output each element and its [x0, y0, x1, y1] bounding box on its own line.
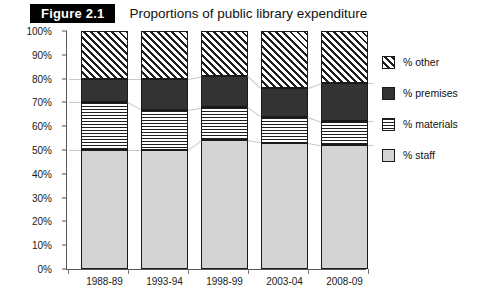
segment-connector-line	[308, 83, 321, 89]
y-axis-tick-label: 20%	[32, 216, 52, 227]
bar-segment-staff[interactable]	[321, 145, 368, 269]
legend-label: % premises	[403, 87, 458, 99]
x-axis-tick-mark	[188, 269, 189, 274]
legend-label: % materials	[403, 118, 458, 130]
y-axis-line	[66, 31, 67, 270]
bar-segment-premises[interactable]	[141, 79, 188, 110]
segment-connector-line	[247, 76, 261, 89]
segment-connector-line	[128, 102, 141, 110]
segment-connector-line	[308, 143, 321, 146]
segment-connector-line	[368, 145, 374, 146]
segment-connector-line	[188, 140, 202, 150]
segment-connector-line	[368, 121, 374, 122]
y-axis-tick-label: 60%	[32, 121, 52, 132]
x-axis-label-2008-09: 2008-09	[308, 276, 382, 287]
segment-connector-line	[188, 76, 201, 79]
legend-label: % staff	[403, 149, 435, 161]
y-axis-tick-label: 50%	[32, 145, 52, 156]
bar-segment-other[interactable]	[141, 31, 188, 79]
segment-connector-line	[247, 107, 261, 117]
segment-connector-line	[308, 117, 321, 123]
y-axis-tick-label: 100%	[26, 26, 52, 37]
bar-segment-premises[interactable]	[321, 83, 368, 121]
bar-segment-materials[interactable]	[141, 110, 188, 150]
bar-1993-94[interactable]	[141, 31, 188, 269]
segment-connector-line	[69, 79, 81, 80]
bar-1988-89[interactable]	[81, 31, 128, 269]
x-axis-tick-mark	[68, 269, 69, 274]
x-axis-tick-mark	[368, 269, 369, 274]
segment-connector-line	[248, 140, 261, 143]
legend-item-staff[interactable]: % staff	[382, 148, 481, 162]
y-axis-tick-label: 70%	[32, 97, 52, 108]
x-axis-tick-mark	[248, 269, 249, 274]
legend-swatch-premises	[382, 87, 395, 100]
bar-2003-04[interactable]	[261, 31, 308, 269]
legend-item-other[interactable]: % other	[382, 55, 481, 69]
x-axis-tick-mark	[128, 269, 129, 274]
segment-connector-line	[188, 107, 201, 110]
bar-2008-09[interactable]	[321, 31, 368, 269]
segment-connector-line	[128, 79, 141, 80]
legend-label: % other	[403, 56, 439, 68]
segment-connector-line	[128, 150, 141, 151]
y-axis-tick-label: 0%	[38, 264, 52, 275]
legend-swatch-other	[382, 56, 395, 69]
bar-segment-other[interactable]	[201, 31, 248, 76]
bar-segment-materials[interactable]	[261, 117, 308, 143]
x-axis-tick-mark	[308, 269, 309, 274]
y-axis: 0%10%20%30%40%50%60%70%80%90%100%	[0, 26, 66, 299]
segment-connector-line	[69, 150, 81, 151]
page-title: Proportions of public library expenditur…	[129, 6, 367, 21]
bar-segment-staff[interactable]	[141, 150, 188, 269]
bar-segment-other[interactable]	[321, 31, 368, 83]
legend-swatch-materials	[382, 118, 395, 131]
y-axis-tick-label: 10%	[32, 240, 52, 251]
bar-segment-materials[interactable]	[81, 102, 128, 150]
bar-segment-staff[interactable]	[261, 143, 308, 269]
bar-1998-99[interactable]	[201, 31, 248, 269]
bar-segment-staff[interactable]	[81, 150, 128, 269]
y-axis-tick-label: 30%	[32, 192, 52, 203]
segment-connector-line	[368, 83, 374, 84]
legend-item-premises[interactable]: % premises	[382, 86, 481, 100]
y-axis-tick-label: 40%	[32, 168, 52, 179]
legend-item-materials[interactable]: % materials	[382, 117, 481, 131]
bar-segment-other[interactable]	[81, 31, 128, 79]
bar-segment-premises[interactable]	[81, 79, 128, 103]
bar-segment-premises[interactable]	[201, 76, 248, 107]
y-axis-tick-label: 80%	[32, 73, 52, 84]
x-axis-line	[66, 269, 366, 270]
bar-segment-other[interactable]	[261, 31, 308, 88]
segment-connector-line	[69, 102, 81, 103]
legend-swatch-staff	[382, 149, 395, 162]
figure-title-row: Figure 2.1 Proportions of public library…	[0, 0, 481, 26]
bar-segment-materials[interactable]	[321, 121, 368, 145]
bar-segment-staff[interactable]	[201, 140, 248, 269]
bar-segment-premises[interactable]	[261, 88, 308, 117]
bar-segment-materials[interactable]	[201, 107, 248, 140]
y-axis-tick-label: 90%	[32, 49, 52, 60]
figure-number-badge: Figure 2.1	[30, 4, 115, 23]
chart-legend: % other% premises% materials% staff	[382, 55, 481, 179]
